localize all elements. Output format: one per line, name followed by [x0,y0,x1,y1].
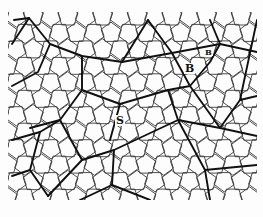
label-B-large: B [184,63,195,74]
label-S: S [115,115,125,126]
penrose-tiling-figure [0,0,263,217]
label-B-small: B [204,48,213,56]
